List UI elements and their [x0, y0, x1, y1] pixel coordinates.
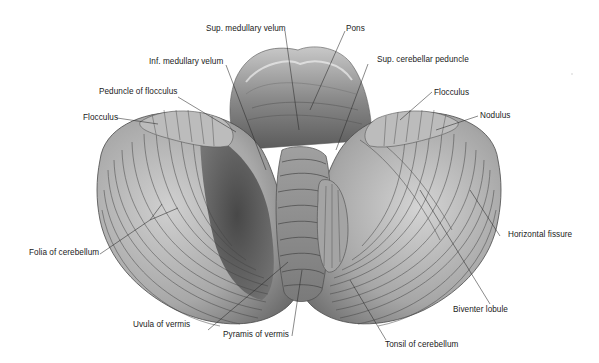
- label-flocculus-right: Flocculus: [434, 88, 469, 98]
- label-horizontal-fissure: Horizontal fissure: [508, 230, 572, 240]
- cerebellum-illustration: [0, 0, 599, 363]
- label-inf-medullary-velum: Inf. medullary velum: [149, 57, 223, 67]
- label-pons: Pons: [346, 24, 365, 34]
- label-folia-of-cerebellum: Folia of cerebellum: [29, 248, 99, 258]
- pons-shape: [230, 47, 372, 150]
- label-flocculus-left: Flocculus: [83, 113, 118, 123]
- label-sup-cerebellar-peduncle: Sup. cerebellar peduncle: [377, 55, 469, 65]
- label-tonsil-of-cerebellum: Tonsil of cerebellum: [385, 340, 458, 350]
- label-biventer-lobule: Biventer lobule: [453, 305, 508, 315]
- label-pyramis-of-vermis: Pyramis of vermis: [223, 330, 289, 340]
- label-sup-medullary-velum: Sup. medullary velum: [206, 24, 286, 34]
- label-uvula-of-vermis: Uvula of vermis: [133, 320, 190, 330]
- label-nodulus: Nodulus: [480, 111, 510, 121]
- speck: [571, 73, 573, 75]
- label-peduncle-of-flocculus: Peduncle of flocculus: [99, 87, 177, 97]
